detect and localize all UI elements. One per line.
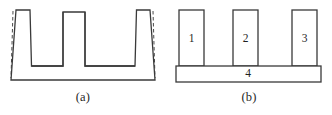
comb-outer-profile — [11, 10, 155, 80]
part-label-2: 2 — [243, 32, 249, 44]
figure-panel-a: (a) — [0, 0, 166, 115]
groove-right-outline — [85, 12, 135, 66]
panel-b-caption: (b) — [166, 90, 332, 105]
part-label-3: 3 — [302, 32, 308, 44]
figure-panel-b: 1 2 3 4 (b) — [166, 0, 332, 115]
part-label-1: 1 — [189, 32, 195, 44]
figure-container: (a) 1 2 3 4 (b) — [0, 0, 332, 115]
part-label-4: 4 — [245, 67, 251, 79]
panel-a-caption: (a) — [0, 90, 166, 105]
groove-left-outline — [32, 12, 64, 66]
